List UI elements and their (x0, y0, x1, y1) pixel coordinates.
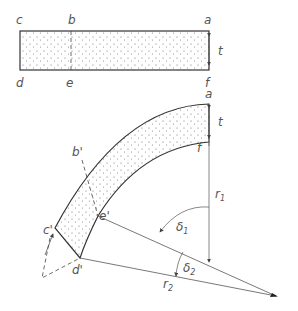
rotation-arrow (45, 234, 53, 255)
label-a: a (204, 13, 211, 27)
label-e: e (66, 76, 73, 90)
bent-bar: a t b' f c' e' d' (42, 87, 224, 278)
label-c-prime: c' (43, 223, 53, 237)
label-delta1: δ1 (176, 220, 188, 236)
angle-arc-delta2 (176, 252, 183, 276)
label-t-bent: t (218, 115, 224, 129)
label-r2: r2 (163, 277, 173, 293)
label-b: b (68, 13, 76, 27)
label-d: d (16, 76, 24, 90)
label-delta2: δ2 (183, 261, 195, 277)
label-b-prime: b' (72, 145, 83, 159)
label-t: t (218, 44, 224, 58)
label-c: c (16, 13, 23, 27)
bending-diagram: c b a d e f t a t b' f c' e' d' r1 δ1 δ2… (0, 0, 298, 311)
bar-rectangle (20, 31, 209, 70)
label-a-bent: a (205, 87, 212, 101)
straight-bar: c b a d e f t (16, 13, 224, 90)
label-d-prime: d' (72, 263, 83, 277)
label-r1: r1 (215, 187, 225, 203)
